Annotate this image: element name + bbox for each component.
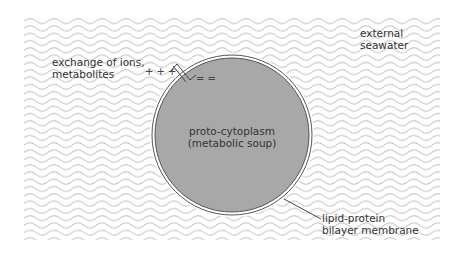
seawater-label-line1: external	[360, 27, 403, 39]
membrane-label-line2: bilayer membrane	[322, 224, 419, 236]
positive-charges: + + +	[145, 66, 177, 77]
seawater-label-line2: seawater	[360, 39, 409, 51]
protocell-diagram: + + + = = exchange of ions, metabolites …	[0, 0, 463, 266]
exchange-label-line1: exchange of ions,	[52, 56, 145, 68]
membrane-label-line1: lipid-protein	[322, 212, 385, 224]
cytoplasm-label-line2: (metabolic soup)	[188, 137, 277, 149]
negative-charges: = =	[196, 73, 216, 84]
exchange-label-line2: metabolites	[52, 68, 114, 80]
cytoplasm-label-line1: proto-cytoplasm	[189, 125, 275, 137]
